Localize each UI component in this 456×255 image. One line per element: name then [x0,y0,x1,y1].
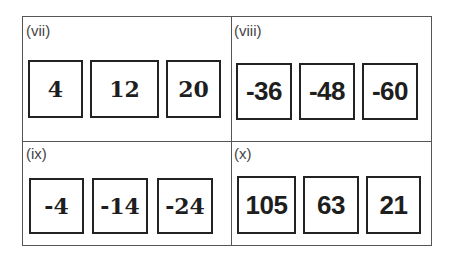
number-box: -14 [92,178,148,234]
horizontal-divider [22,141,432,142]
number-box: -60 [362,63,418,120]
number-box: -24 [157,178,213,234]
number-box: 12 [90,60,159,118]
panel-label: (viii) [234,23,262,38]
number-box: 4 [28,60,83,118]
number-box: -4 [29,178,84,234]
number-box: -48 [299,63,355,120]
number-box: 63 [303,176,359,234]
panel-label: (vii) [26,23,50,38]
number-box: -36 [236,63,292,120]
panel-label: (ix) [26,146,47,161]
vertical-divider [231,16,232,246]
number-box: 21 [366,176,421,234]
panel-label: (x) [234,146,252,161]
number-box: 105 [237,176,296,234]
number-box: 20 [166,60,221,118]
